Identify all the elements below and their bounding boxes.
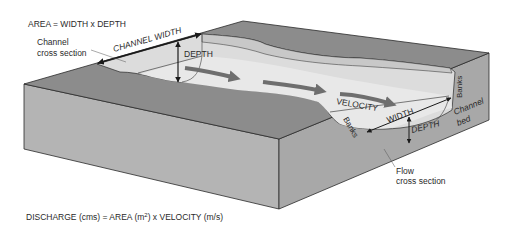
flow-cross-section-label-1: Flow xyxy=(396,166,415,176)
channel-cross-section-label-2: cross section xyxy=(37,48,87,58)
banks-label-right: Banks xyxy=(455,76,464,98)
depth-label-upper: DEPTH xyxy=(184,49,213,59)
channel-cross-section-label-1: Channel xyxy=(37,37,69,47)
flow-cross-section-label-2: cross section xyxy=(396,176,446,186)
discharge-formula: DISCHARGE (cms) = AREA (m2) x VELOCITY (… xyxy=(26,212,223,222)
stream-channel-diagram: AREA = WIDTH x DEPTH Channel cross secti… xyxy=(0,0,508,230)
area-formula: AREA = WIDTH x DEPTH xyxy=(28,19,126,29)
